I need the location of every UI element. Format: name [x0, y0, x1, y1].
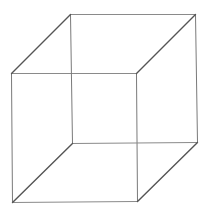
edge-depth-top-right	[137, 15, 196, 74]
edge-back-right	[196, 15, 198, 143]
edge-depth-bottom-left	[13, 144, 73, 203]
edge-front-bottom	[13, 202, 138, 203]
necker-cube-diagram	[0, 0, 209, 214]
edge-back-bottom	[73, 143, 198, 144]
edge-depth-bottom-right	[138, 143, 198, 202]
edge-depth-top-left	[12, 15, 71, 74]
edge-front-left	[12, 74, 13, 203]
edge-front-right	[137, 74, 138, 202]
edge-back-left	[71, 15, 73, 144]
cube-wireframe	[0, 0, 209, 214]
